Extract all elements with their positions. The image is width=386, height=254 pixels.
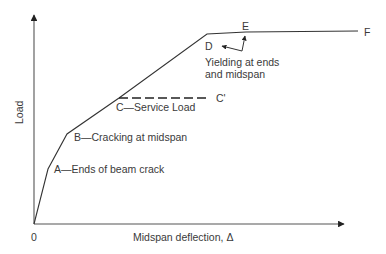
- label-c-prime: C': [216, 92, 226, 104]
- load-deflection-diagram: A—Ends of beam crack B—Cracking at midsp…: [0, 0, 386, 254]
- label-e: E: [242, 20, 249, 32]
- y-axis-label: Load: [13, 100, 25, 124]
- yield-annotation-line2: and midspan: [205, 68, 265, 80]
- origin-label: 0: [31, 231, 37, 243]
- yield-annotation-line1: Yielding at ends: [205, 56, 279, 68]
- x-axis-label: Midspan deflection, Δ: [133, 231, 233, 243]
- label-f: F: [364, 26, 370, 38]
- label-a: A—Ends of beam crack: [54, 163, 165, 175]
- load-deflection-curve: [34, 31, 358, 224]
- yield-arrow-to-e: [242, 36, 245, 51]
- yield-arrow-to-d: [222, 46, 242, 51]
- label-d: D: [205, 40, 213, 52]
- label-c: C—Service Load: [116, 101, 196, 113]
- label-b: B—Cracking at midspan: [74, 131, 187, 143]
